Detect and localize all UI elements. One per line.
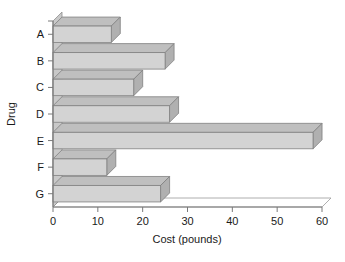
bar-chart-3d: 0102030405060 ABCDEFG Cost (pounds) Drug [0, 0, 345, 262]
x-tick-label-10: 10 [92, 215, 104, 227]
chart-container: 0102030405060 ABCDEFG Cost (pounds) Drug [0, 0, 345, 262]
x-tick-label-0: 0 [50, 215, 56, 227]
y-tick-label-A: A [37, 28, 45, 40]
y-tick-label-G: G [35, 188, 44, 200]
bar-A [53, 17, 120, 42]
bar-B [53, 44, 174, 69]
bar-D [53, 97, 179, 122]
x-axis-title: Cost (pounds) [152, 233, 221, 245]
bar-E [53, 123, 322, 148]
x-tick-label-60: 60 [316, 215, 328, 227]
x-tick-label-30: 30 [181, 215, 193, 227]
y-tick-label-B: B [37, 55, 44, 67]
bar-G [53, 176, 170, 201]
bar-F [53, 150, 116, 175]
x-tick-label-40: 40 [226, 215, 238, 227]
x-tick-label-20: 20 [137, 215, 149, 227]
bar-C [53, 70, 143, 95]
y-tick-label-E: E [37, 135, 44, 147]
x-tick-label-50: 50 [271, 215, 283, 227]
y-tick-label-F: F [37, 161, 44, 173]
y-axis-title: Drug [5, 102, 17, 126]
y-tick-label-C: C [36, 81, 44, 93]
y-tick-label-D: D [36, 108, 44, 120]
